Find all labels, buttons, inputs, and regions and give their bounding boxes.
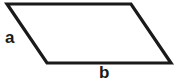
parallelogram-figure: a b: [0, 0, 177, 84]
parallelogram-shape: [0, 0, 177, 84]
side-label-b: b: [99, 64, 109, 81]
side-label-a: a: [5, 29, 14, 46]
